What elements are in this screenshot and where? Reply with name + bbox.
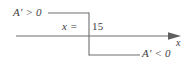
critical-point-label: x = xyxy=(62,21,78,32)
critical-point-value: 15 xyxy=(92,21,103,32)
sign-chart-figure: A' > 0 x = 15 A' < 0 x xyxy=(0,0,196,66)
x-axis-label: x xyxy=(176,38,181,48)
positive-region-label: A' > 0 xyxy=(13,7,42,18)
negative-region-label: A' < 0 xyxy=(142,48,171,59)
